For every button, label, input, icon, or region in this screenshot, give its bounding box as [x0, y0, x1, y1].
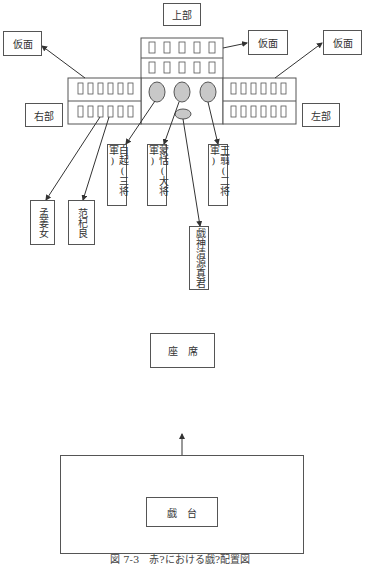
arrow-to-left-mask [42, 46, 85, 78]
mask-box-right: 仮面 [323, 30, 362, 55]
stage-box: 戯 台 [146, 497, 218, 527]
left-section-label: 左部 [302, 103, 340, 127]
figure-meng-jiang-nu: 孟姜女 [30, 200, 55, 245]
arrow-to-fan-qi-liang [83, 117, 109, 200]
mask-box-center: 仮面 [248, 30, 288, 55]
mask-box-left: 仮面 [3, 31, 42, 56]
figure-xishen: 戯神清源真君 [189, 226, 209, 290]
figure-caption: 図 7-3 赤?における戯?配置図 [110, 551, 250, 566]
figure-wang-jian: 王翦(二将軍) [208, 144, 228, 206]
arrow-to-xishen [183, 119, 200, 226]
arrow-to-center-mask [223, 43, 247, 48]
top-section-label: 上部 [163, 3, 201, 26]
figure-meng-tian: 蒙恬(大将軍) [147, 144, 167, 206]
figure-fan-qi-liang: 范杞良 [68, 200, 95, 245]
seats-box: 座 席 [150, 333, 215, 368]
right-section-label: 右部 [25, 103, 63, 127]
arrow-to-meng-jiang-nu [46, 117, 100, 200]
figure-bai-qi: 白起(三将軍) [107, 144, 127, 206]
